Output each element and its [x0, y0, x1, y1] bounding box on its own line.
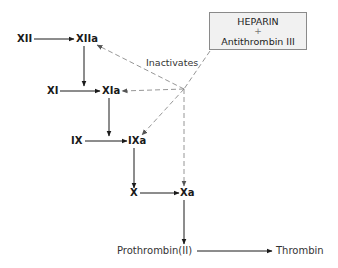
node-thrombin: Thrombin: [276, 245, 324, 257]
inactivation-arrow-ixa: [142, 89, 184, 135]
node-ix: IX: [71, 135, 82, 147]
node-xiia: XIIa: [76, 33, 98, 45]
plus-sign: +: [210, 27, 306, 36]
node-prothrombin: Prothrombin(II): [117, 245, 192, 257]
inactivates-label: Inactivates: [146, 57, 198, 69]
node-xa: Xa: [180, 187, 194, 199]
node-x: X: [130, 187, 138, 199]
heparin-antithrombin-box: HEPARIN + Antithrombin III: [209, 12, 307, 50]
node-xia: XIa: [102, 85, 120, 97]
antithrombin-label: Antithrombin III: [210, 36, 306, 47]
node-xi: XI: [47, 85, 58, 97]
node-xii: XII: [17, 33, 32, 45]
node-ixa: IXa: [128, 135, 146, 147]
inactivation-arrow-xia: [122, 89, 184, 91]
